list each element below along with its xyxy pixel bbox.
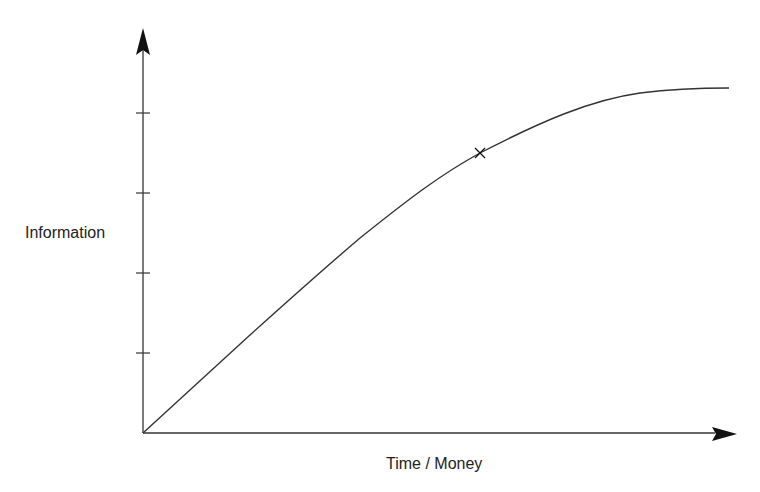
y-axis-label: Information [25,224,105,242]
chart-canvas [0,0,760,492]
information-curve [143,88,729,433]
x-axis-label: Time / Money [386,455,482,473]
x-axis-arrowhead-icon [712,427,737,441]
x-marker-icon [475,148,485,158]
